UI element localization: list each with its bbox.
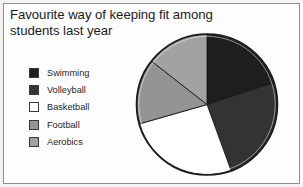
- legend-item-football[interactable]: Football: [29, 116, 137, 133]
- legend-label-basketball: Basketball: [47, 102, 89, 112]
- legend-item-swimming[interactable]: Swimming: [29, 64, 137, 81]
- legend-label-football: Football: [47, 120, 80, 130]
- pie-chart: [134, 30, 282, 180]
- chart-legend: Swimming Volleyball Basketball Football …: [29, 64, 137, 151]
- legend-label-swimming: Swimming: [47, 68, 89, 78]
- chart-figure: Favourite way of keeping fit among stude…: [0, 0, 303, 187]
- legend-swatch-swimming: [29, 68, 39, 78]
- page-edge-bottom: [0, 184, 303, 187]
- legend-swatch-football: [29, 120, 39, 130]
- pie-chart-svg: [134, 30, 282, 180]
- pie-slice-group: [137, 35, 277, 175]
- legend-swatch-basketball: [29, 102, 39, 112]
- legend-item-basketball[interactable]: Basketball: [29, 99, 137, 116]
- legend-swatch-volleyball: [29, 85, 39, 95]
- legend-item-volleyball[interactable]: Volleyball: [29, 81, 137, 98]
- legend-label-aerobics: Aerobics: [47, 137, 83, 147]
- chart-title-line-1: Favourite way of keeping fit among: [10, 7, 232, 23]
- legend-item-aerobics[interactable]: Aerobics: [29, 134, 137, 151]
- legend-label-volleyball: Volleyball: [47, 85, 86, 95]
- legend-swatch-aerobics: [29, 137, 39, 147]
